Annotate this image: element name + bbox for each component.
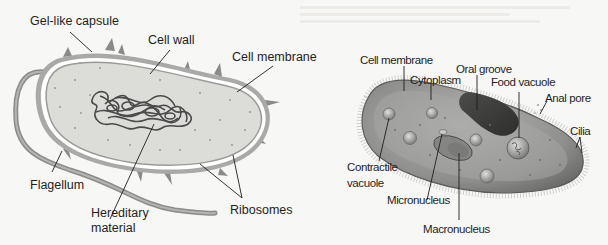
label-gel-like-capsule: Gel-like capsule — [30, 14, 119, 28]
label-oral-groove: Oral groove — [456, 62, 512, 76]
label-cilia: Cilia — [570, 124, 590, 138]
label-cytoplasm: Cytoplasm — [410, 73, 461, 87]
label-contractile-vacuole-line2: vacuole — [347, 176, 384, 190]
label-hereditary-material-line2: material — [91, 221, 135, 235]
label-contractile-vacuole-line1: Contractile — [347, 160, 398, 174]
label-cell-membrane-bacterium: Cell membrane — [232, 50, 317, 64]
label-cell-wall: Cell wall — [148, 33, 195, 47]
label-anal-pore: Anal pore — [545, 91, 591, 105]
label-ribosomes: Ribosomes — [230, 203, 293, 217]
label-macronucleus: Macronucleus — [423, 222, 490, 236]
label-hereditary-material-line1: Hereditary — [91, 206, 149, 220]
cell-comparison-figure: Gel-like capsule Cell wall Cell membrane… — [0, 0, 608, 245]
label-cell-membrane-paramecium: Cell membrane — [360, 53, 433, 67]
label-micronucleus: Micronucleus — [387, 193, 450, 207]
food-vacuole-shape — [507, 137, 529, 159]
label-food-vacuole: Food vacuole — [491, 75, 555, 89]
label-flagellum: Flagellum — [30, 178, 84, 192]
